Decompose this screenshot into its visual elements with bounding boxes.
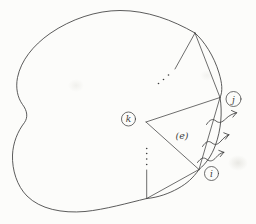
vertex-label-text-j: j <box>230 95 235 105</box>
ellipsis-dots-vertical <box>146 148 148 166</box>
vertex-label-text-i: i <box>210 169 213 179</box>
vertex-label-j: j <box>226 92 241 107</box>
figure-canvas: k j i (e) <box>0 0 256 224</box>
vertex-label-i: i <box>205 167 219 181</box>
element-label: (e) <box>175 130 188 141</box>
boundary-chord-i-bottom <box>147 170 199 199</box>
vertex-label-k: k <box>122 112 136 126</box>
ellipsis-dots-diagonal <box>158 74 170 84</box>
diagram-svg: k j i (e) <box>0 0 256 224</box>
vertex-label-text-k: k <box>126 114 131 124</box>
triangle-edge-k-j <box>146 98 220 123</box>
partial-edge-top <box>175 33 195 69</box>
triangle-edge-k-i <box>146 122 199 170</box>
